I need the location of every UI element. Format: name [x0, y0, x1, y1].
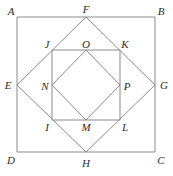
vertex-label-H: H: [82, 158, 90, 169]
vertex-label-B: B: [158, 6, 165, 17]
vertex-label-E: E: [5, 80, 12, 91]
vertex-label-M: M: [81, 122, 90, 133]
vertex-label-P: P: [124, 81, 131, 92]
inner-square-shape: [52, 50, 120, 120]
vertex-label-J: J: [45, 39, 50, 50]
vertex-label-I: I: [45, 122, 49, 133]
inner-diamond-shape: [52, 50, 120, 120]
vertex-label-L: L: [122, 122, 128, 133]
vertex-label-N: N: [41, 81, 48, 92]
vertex-label-F: F: [83, 4, 90, 15]
vertex-label-K: K: [121, 39, 128, 50]
figure-canvas: [0, 0, 173, 176]
vertex-label-G: G: [160, 80, 168, 91]
vertex-label-A: A: [8, 6, 15, 17]
vertex-label-O: O: [82, 39, 90, 50]
vertex-label-D: D: [7, 155, 15, 166]
geometry-figure: A B C D E F G H J K L I N O P M: [0, 0, 173, 176]
vertex-label-C: C: [157, 155, 164, 166]
